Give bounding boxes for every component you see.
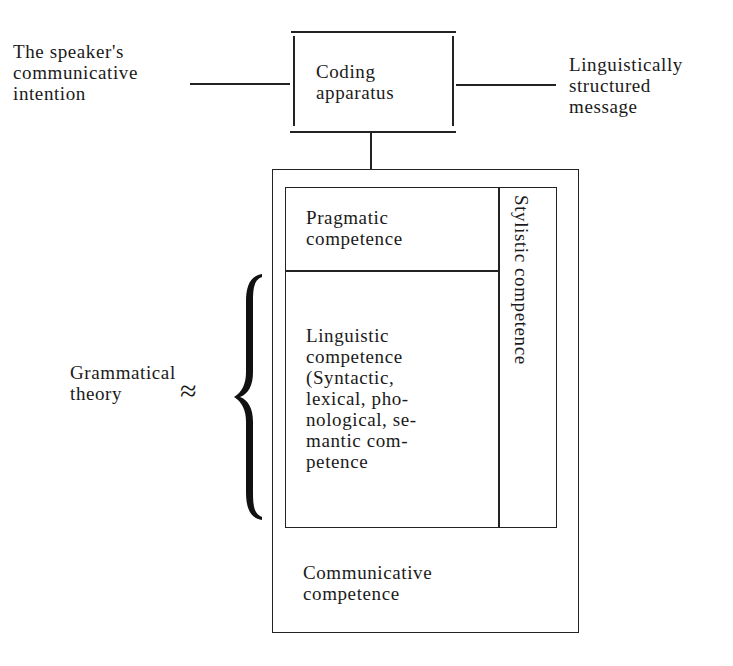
stylistic-competence-label: Stylistic competence <box>511 195 532 365</box>
curly-brace-icon <box>228 272 268 522</box>
connector-input-to-coding <box>190 83 290 85</box>
grammatical-theory-label: Grammatical theory <box>70 362 176 404</box>
output-label-structured-message: Linguistically structured message <box>569 54 683 117</box>
communicative-competence-label: Communicative competence <box>303 562 432 604</box>
pragmatic-competence-label: Pragmatic competence <box>306 207 403 249</box>
coding-apparatus-label: Coding apparatus <box>316 61 394 103</box>
approx-symbol: ≈ <box>180 376 197 406</box>
coding-apparatus-box: Coding apparatus <box>290 31 456 132</box>
coding-box-bottom-edge <box>290 131 456 133</box>
connector-coding-to-competence <box>370 132 372 170</box>
input-label-speaker-intention: The speaker's communicative intention <box>13 41 138 104</box>
coding-box-right-edge <box>452 36 454 126</box>
stylistic-divider <box>498 187 500 528</box>
coding-box-top-edge <box>291 31 456 33</box>
linguistic-competence-label: Linguistic competence (Syntactic, lexica… <box>306 325 417 472</box>
pragmatic-linguistic-divider <box>285 270 499 272</box>
coding-box-left-edge <box>293 36 295 126</box>
connector-coding-to-output <box>456 84 556 86</box>
